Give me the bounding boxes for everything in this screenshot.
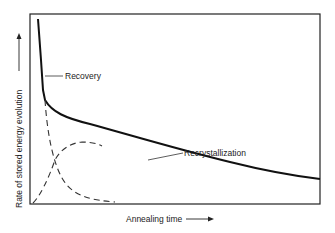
recrystallization-label: Recrystallization bbox=[184, 148, 246, 158]
y-axis-arrowhead-icon bbox=[17, 33, 22, 39]
recovery-dashed-curve bbox=[45, 100, 115, 202]
plot-frame bbox=[30, 14, 320, 204]
recrystallization-dashed-curve bbox=[33, 142, 102, 203]
x-axis-label: Annealing time bbox=[126, 214, 183, 224]
y-axis-label: Rate of stored energy evolution bbox=[14, 90, 24, 208]
recovery-label: Recovery bbox=[65, 71, 102, 81]
total-curve bbox=[38, 19, 320, 179]
recrystallization-leader bbox=[148, 153, 183, 160]
stored-energy-diagram: Recovery Recrystallization Annealing tim… bbox=[0, 0, 335, 233]
x-axis-arrowhead-icon bbox=[208, 217, 214, 222]
